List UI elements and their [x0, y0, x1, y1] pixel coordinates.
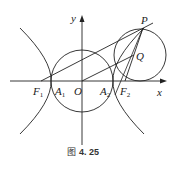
- geometry-diagram: y x O F1 A1 A2 F2 P Q 图 4. 25: [0, 0, 177, 169]
- point-a1-label: A1: [54, 85, 66, 99]
- diagram-figure: y x O F1 A1 A2 F2 P Q 图 4. 25: [0, 0, 177, 169]
- point-a2-label: A2: [99, 85, 111, 99]
- point-f1-label: F1: [32, 85, 44, 99]
- figure-caption-number: 4. 25: [79, 147, 99, 157]
- point-p-label: P: [140, 14, 148, 26]
- figure-caption-prefix: 图: [67, 147, 76, 157]
- y-axis-arrow-icon: [80, 15, 85, 22]
- x-axis-label: x: [156, 86, 162, 98]
- point-f2-label: F2: [119, 85, 131, 99]
- origin-label: O: [74, 85, 82, 97]
- point-q-label: Q: [136, 50, 144, 62]
- y-axis-label: y: [70, 12, 76, 24]
- x-axis-arrow-icon: [160, 79, 167, 84]
